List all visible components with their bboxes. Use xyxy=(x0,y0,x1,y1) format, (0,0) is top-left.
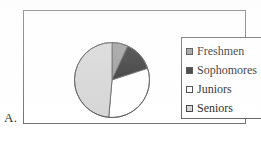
legend-label-freshmen: Freshmen xyxy=(197,45,244,57)
legend: Freshmen Sophomores Juniors Seniors xyxy=(181,37,261,119)
legend-item-freshmen[interactable]: Freshmen xyxy=(186,42,261,60)
legend-swatch-freshmen xyxy=(186,48,193,55)
legend-label-seniors: Seniors xyxy=(197,102,233,114)
pie-chart xyxy=(64,32,160,128)
legend-item-juniors[interactable]: Juniors xyxy=(186,80,261,98)
chart-frame: Freshmen Sophomores Juniors Seniors xyxy=(23,10,246,124)
legend-swatch-seniors xyxy=(186,105,193,112)
legend-item-seniors[interactable]: Seniors xyxy=(186,99,261,117)
pie-chart-svg xyxy=(64,32,160,128)
pie-slice-seniors[interactable] xyxy=(74,42,112,117)
legend-label-sophomores: Sophomores xyxy=(197,64,257,76)
legend-item-sophomores[interactable]: Sophomores xyxy=(186,61,261,79)
legend-swatch-juniors xyxy=(186,86,193,93)
figure-label: A. xyxy=(4,110,17,126)
legend-label-juniors: Juniors xyxy=(197,83,232,95)
legend-swatch-sophomores xyxy=(186,67,193,74)
